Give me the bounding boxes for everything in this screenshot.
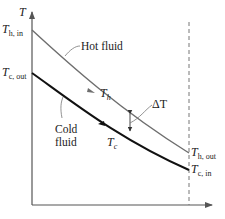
y-axis-label: T [19, 5, 27, 19]
t-c-out-label: Tc, out [2, 65, 27, 81]
cold-fluid-curve [32, 73, 189, 170]
temperature-profile-diagram: T ΔT Hot fluid Cold fluid Th Tc Th, in T… [0, 0, 225, 219]
cold-curve-symbol: Tc [107, 135, 118, 151]
cold-fluid-label-line2: fluid [55, 136, 77, 148]
cold-fluid-leader [61, 97, 63, 118]
t-h-in-label: Th, in [2, 22, 23, 38]
hot-fluid-label: Hot fluid [81, 40, 123, 52]
hot-fluid-leader [65, 46, 80, 56]
t-h-out-label: Th, out [191, 145, 217, 161]
hot-flow-arrow-icon [87, 88, 95, 93]
delta-t-label: ΔT [152, 97, 168, 111]
hot-curve-symbol: Th [100, 86, 111, 102]
t-c-in-label: Tc, in [191, 162, 211, 178]
cold-fluid-label-line1: Cold [55, 123, 78, 135]
